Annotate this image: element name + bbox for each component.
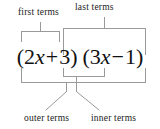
left-variable: x — [35, 44, 45, 69]
algebraic-expression: (2x+3)(3x−1) — [0, 44, 160, 70]
bracket-inner-terms — [64, 68, 105, 92]
left-open-paren: ( — [17, 44, 24, 69]
leader-line-outer — [46, 92, 66, 110]
label-outer-terms: outer terms — [24, 113, 69, 123]
foil-diagram: first terms last terms outer terms inner… — [0, 0, 160, 129]
bracket-outer-terms — [22, 68, 146, 92]
bracket-first-terms — [22, 22, 60, 42]
right-factor: (3x−1) — [83, 44, 144, 69]
label-inner-terms: inner terms — [91, 113, 136, 123]
right-constant: 1 — [125, 44, 136, 69]
right-variable: x — [101, 44, 111, 69]
left-coefficient: 2 — [24, 44, 35, 69]
left-close-paren: ) — [70, 44, 77, 69]
label-first-terms: first terms — [18, 7, 59, 17]
left-operator: + — [45, 44, 59, 69]
label-last-terms: last terms — [75, 2, 114, 12]
leader-line-inner — [77, 92, 99, 110]
right-operator: − — [111, 44, 125, 69]
left-factor: (2x+3) — [17, 44, 78, 69]
right-open-paren: ( — [83, 44, 90, 69]
left-constant: 3 — [59, 44, 70, 69]
right-coefficient: 3 — [90, 44, 101, 69]
right-close-paren: ) — [136, 44, 143, 69]
